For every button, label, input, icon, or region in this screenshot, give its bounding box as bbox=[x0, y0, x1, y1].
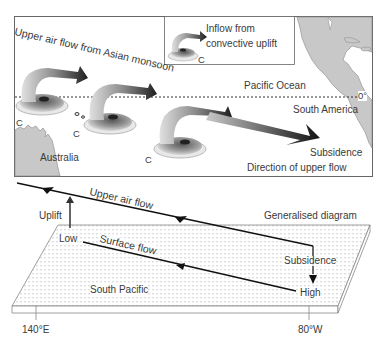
subsidence-label: Subsidence bbox=[284, 256, 336, 266]
high-pressure-label: High bbox=[300, 288, 321, 298]
diagram-graphics bbox=[0, 0, 384, 348]
uplift-arrow-icon bbox=[66, 196, 74, 203]
convection-marker-c1: C bbox=[16, 118, 23, 128]
legend-line2: convective uplift bbox=[206, 39, 277, 49]
legend-line1: Inflow from bbox=[206, 24, 255, 34]
pacific-ocean-label: Pacific Ocean bbox=[244, 81, 306, 91]
convection-marker-c3: C bbox=[145, 155, 152, 165]
convection-marker-c2: C bbox=[73, 129, 80, 139]
low-pressure-label: Low bbox=[59, 234, 77, 244]
direction-upper-flow-label: Direction of upper flow bbox=[247, 163, 347, 173]
longitude-80w-label: 80°W bbox=[298, 325, 323, 335]
south-pacific-label: South Pacific bbox=[90, 285, 148, 295]
longitude-140e-label: 140°E bbox=[22, 325, 49, 335]
uplift-label: Uplift bbox=[39, 211, 62, 221]
equator-label: 0° bbox=[358, 91, 367, 101]
australia-label: Australia bbox=[40, 153, 79, 163]
legend-symbol-c: C bbox=[198, 55, 205, 65]
south-america-label: South America bbox=[293, 105, 358, 115]
map-subsidence-label: Subsidence bbox=[310, 148, 362, 158]
generalised-diagram-title: Generalised diagram bbox=[264, 211, 357, 221]
